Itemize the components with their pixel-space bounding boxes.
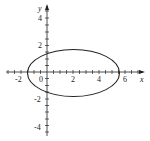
ellipse-plot: x y 0 -2 2 4 6 4 2 -2 -4 [0,0,150,141]
x-tick-label-4: 4 [97,75,101,84]
y-axis-label: y [37,4,42,13]
x-tick-label-6: 6 [123,75,127,84]
y-tick-label-m2: -2 [34,95,41,104]
x-tick-label-m2: -2 [15,75,22,84]
x-axis-arrow-icon [139,70,145,74]
origin-label: 0 [39,75,43,84]
y-tick-label-2: 2 [38,41,42,50]
y-tick-label-m4: -4 [34,123,41,132]
y-axis-arrow-icon [45,4,49,10]
x-axis-label: x [139,75,144,84]
x-tick-label-2: 2 [71,75,75,84]
y-tick-label-4: 4 [38,14,42,23]
